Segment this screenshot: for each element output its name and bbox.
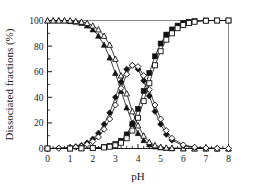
- data-point-marker: [186, 21, 191, 26]
- data-point-marker: [152, 54, 157, 59]
- data-point-marker: [152, 63, 157, 68]
- data-point-marker: [119, 140, 124, 145]
- y-tick-label: 60: [34, 67, 44, 77]
- data-point-marker: [169, 31, 174, 36]
- data-point-marker: [45, 146, 50, 151]
- data-point-marker: [181, 22, 186, 27]
- data-point-marker: [107, 144, 112, 149]
- y-tick-label: 40: [34, 93, 44, 103]
- data-point-marker: [90, 146, 95, 151]
- data-point-marker: [113, 56, 119, 61]
- data-point-marker: [130, 128, 135, 133]
- y-tick-label: 20: [34, 118, 44, 128]
- x-tick-label: 5: [158, 154, 163, 164]
- data-point-marker: [118, 85, 124, 91]
- data-point-marker: [158, 41, 163, 46]
- x-tick-label: 1: [68, 154, 73, 164]
- x-tick-label: 3: [113, 154, 118, 164]
- data-point-marker: [180, 142, 186, 148]
- data-point-marker: [141, 88, 146, 93]
- data-point-marker: [158, 49, 163, 54]
- data-point-marker: [215, 18, 220, 23]
- x-tick-label: 4: [136, 154, 141, 164]
- data-point-marker: [107, 55, 113, 60]
- x-tick-label: 2: [90, 154, 95, 164]
- chart-canvas: 020406080100012345678pHDissociated fract…: [0, 0, 253, 190]
- data-point-marker: [124, 105, 130, 110]
- x-tick-label: 7: [204, 154, 209, 164]
- data-point-marker: [135, 130, 141, 135]
- data-point-marker: [158, 116, 164, 122]
- series-line: [48, 21, 229, 149]
- data-point-marker: [113, 143, 118, 148]
- data-point-marker: [141, 99, 146, 104]
- data-point-marker: [79, 146, 84, 151]
- data-point-marker: [163, 128, 169, 134]
- x-axis-title: pH: [131, 170, 145, 182]
- data-point-marker: [152, 142, 158, 147]
- series-line: [48, 21, 229, 149]
- data-point-marker: [164, 32, 169, 37]
- data-point-marker: [136, 115, 141, 120]
- data-point-marker: [147, 70, 152, 75]
- data-point-marker: [124, 71, 130, 77]
- data-point-marker: [130, 108, 136, 113]
- data-point-marker: [113, 70, 119, 75]
- data-point-marker: [107, 42, 113, 47]
- data-point-marker: [135, 123, 141, 128]
- data-point-marker: [124, 136, 129, 141]
- data-point-marker: [226, 18, 231, 23]
- y-tick-label: 80: [34, 42, 44, 52]
- data-point-marker: [152, 102, 158, 108]
- data-point-marker: [164, 37, 169, 42]
- data-point-marker: [101, 42, 107, 47]
- series-line: [48, 21, 229, 149]
- y-tick-label: 0: [39, 144, 44, 154]
- data-point-marker: [90, 23, 96, 28]
- y-axis-title: Dissociated fractions (%): [3, 28, 16, 140]
- dissociation-vs-ph-chart: 020406080100012345678pHDissociated fract…: [0, 0, 253, 190]
- data-point-marker: [129, 62, 135, 68]
- data-point-marker: [147, 81, 152, 86]
- data-point-marker: [73, 144, 79, 150]
- series-0: [45, 18, 232, 151]
- x-tick-label: 6: [181, 154, 186, 164]
- data-point-marker: [203, 18, 208, 23]
- data-point-marker: [96, 27, 102, 32]
- data-point-marker: [175, 26, 180, 31]
- series-line: [48, 21, 229, 149]
- data-point-marker: [68, 146, 73, 151]
- data-point-marker: [136, 106, 141, 111]
- y-tick-label: 100: [29, 16, 44, 26]
- data-point-marker: [141, 73, 147, 79]
- x-tick-label: 8: [226, 154, 231, 164]
- data-point-marker: [141, 133, 147, 138]
- x-tick-label: 0: [45, 154, 50, 164]
- data-point-marker: [102, 145, 107, 150]
- data-point-marker: [192, 19, 197, 24]
- data-point-marker: [124, 91, 130, 96]
